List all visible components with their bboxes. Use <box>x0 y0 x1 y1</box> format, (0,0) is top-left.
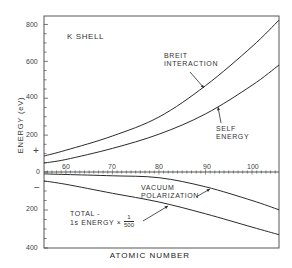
total-scale-fraction: 1 500 <box>124 214 134 229</box>
y-tick-0: 0 <box>36 168 40 176</box>
x-tick-90: 90 <box>203 163 211 171</box>
total-label-line1: TOTAL - <box>70 210 100 218</box>
self-energy-curve <box>44 65 279 163</box>
y-tick-200: 200 <box>26 131 38 139</box>
y-tick-800: 800 <box>26 21 38 29</box>
total-label-line2: 1s ENERGY × <box>70 219 121 227</box>
self-energy-label-line1: SELF <box>216 125 236 133</box>
y-tick-neg-400: 400 <box>26 244 38 252</box>
breit-label-line2: INTERACTION <box>164 60 218 68</box>
fraction-numerator: 1 <box>124 214 134 222</box>
x-axis-label: ATOMIC NUMBER <box>110 251 190 260</box>
breit-label-line1: BREIT <box>164 52 188 60</box>
self-energy-label-line2: ENERGY <box>216 133 249 141</box>
y-axis-label: ENERGY (eV) <box>16 97 25 154</box>
total-arrow <box>143 206 168 221</box>
x-tick-80: 80 <box>155 163 163 171</box>
breit-arrow <box>190 72 204 88</box>
chart-title: K SHELL <box>67 33 104 41</box>
y-axis-ticks <box>44 24 48 248</box>
vacuum-pol-label-line1: VACUUM <box>141 184 174 192</box>
vacuum-pol-label-line2: POLARIZATION <box>141 192 199 200</box>
fraction-denominator: 500 <box>124 222 134 229</box>
data-curves <box>44 20 279 235</box>
y-tick-plus: + <box>33 147 39 155</box>
y-tick-600: 600 <box>26 58 38 66</box>
x-tick-100: 100 <box>247 163 259 171</box>
x-tick-60: 60 <box>62 163 70 171</box>
y-tick-minus: − <box>34 184 40 192</box>
x-tick-70: 70 <box>108 163 116 171</box>
y-tick-400: 400 <box>26 93 38 101</box>
y-tick-neg-200: 200 <box>26 205 38 213</box>
